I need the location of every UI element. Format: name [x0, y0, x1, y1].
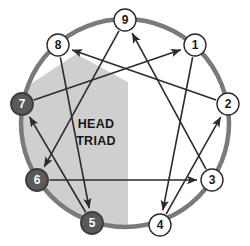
- enneagram-node-2[interactable]: 2: [217, 93, 239, 115]
- head-triad-label-line1: HEAD: [78, 117, 115, 131]
- node-label-4: 4: [157, 218, 164, 232]
- node-label-5: 5: [89, 216, 96, 230]
- enneagram-diagram: 123456789 HEAD TRIAD: [0, 0, 250, 246]
- enneagram-node-9[interactable]: 9: [114, 9, 136, 31]
- enneagram-node-8[interactable]: 8: [47, 34, 69, 56]
- node-label-7: 7: [19, 97, 26, 111]
- enneagram-node-4[interactable]: 4: [149, 214, 171, 236]
- enneagram-canvas: 123456789 HEAD TRIAD: [0, 0, 250, 246]
- node-label-2: 2: [225, 97, 232, 111]
- enneagram-node-6[interactable]: 6: [26, 169, 48, 191]
- node-label-8: 8: [55, 38, 62, 52]
- node-label-1: 1: [192, 38, 199, 52]
- arrow-1-to-4: [163, 57, 193, 210]
- node-label-6: 6: [34, 173, 41, 187]
- enneagram-node-5[interactable]: 5: [81, 212, 103, 234]
- node-label-3: 3: [209, 173, 216, 187]
- head-triad-label-line2: TRIAD: [76, 134, 116, 148]
- enneagram-node-7[interactable]: 7: [11, 93, 33, 115]
- node-label-9: 9: [122, 13, 129, 27]
- enneagram-node-1[interactable]: 1: [184, 34, 206, 56]
- enneagram-node-3[interactable]: 3: [201, 169, 223, 191]
